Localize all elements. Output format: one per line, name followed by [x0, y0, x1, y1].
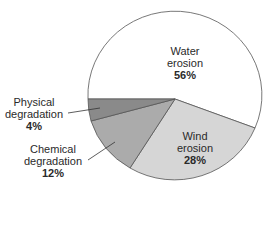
label-chemical-degradation: Chemical degradation 12% [18, 143, 88, 179]
label-wind-line2: erosion [165, 142, 225, 154]
label-water-erosion: Water erosion 56% [155, 45, 215, 81]
label-chemical-line1: Chemical [18, 143, 88, 155]
label-physical-line2: degradation [0, 108, 68, 120]
label-water-line2: erosion [155, 57, 215, 69]
label-chemical-pct: 12% [18, 167, 88, 179]
label-physical-pct: 4% [0, 120, 68, 132]
label-water-pct: 56% [155, 69, 215, 81]
label-wind-erosion: Wind erosion 28% [165, 130, 225, 166]
label-wind-pct: 28% [165, 154, 225, 166]
label-chemical-line2: degradation [18, 155, 88, 167]
label-wind-line1: Wind [165, 130, 225, 142]
label-physical-degradation: Physical degradation 4% [0, 96, 68, 132]
label-physical-line1: Physical [0, 96, 68, 108]
label-water-line1: Water [155, 45, 215, 57]
